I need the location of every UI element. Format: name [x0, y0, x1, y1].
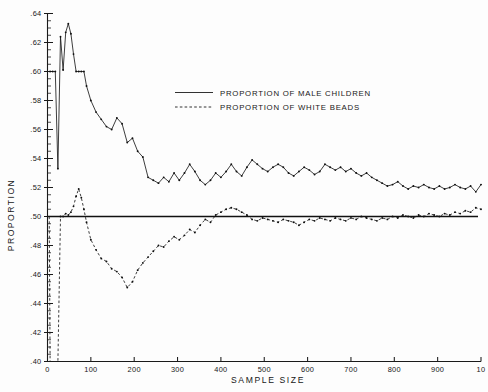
svg-text:200: 200	[128, 365, 141, 374]
svg-text:500: 500	[258, 365, 271, 374]
svg-text:.58: .58	[30, 96, 41, 105]
svg-text:.44: .44	[30, 299, 41, 308]
x-axis-ticks	[48, 357, 482, 362]
y-axis-major-ticks	[44, 14, 53, 362]
svg-text:.62: .62	[30, 38, 41, 47]
svg-text:.40: .40	[30, 357, 41, 366]
chart-figure: .40.42.44.46.48.50.52.54.56.58.60.62.64 …	[0, 0, 488, 392]
svg-text:600: 600	[301, 365, 314, 374]
y-axis-title: PROPORTION	[6, 179, 16, 252]
svg-text:.56: .56	[30, 125, 41, 134]
svg-text:10: 10	[477, 365, 486, 374]
svg-text:.60: .60	[30, 67, 41, 76]
svg-text:.54: .54	[30, 154, 41, 163]
svg-text:.64: .64	[30, 9, 41, 18]
legend: PROPORTION OF MALE CHILDREN PROPORTION O…	[175, 89, 371, 113]
legend-label-white-beads: PROPORTION OF WHITE BEADS	[220, 103, 360, 112]
svg-text:300: 300	[171, 365, 184, 374]
legend-label-male-children: PROPORTION OF MALE CHILDREN	[220, 89, 371, 98]
svg-text:.50: .50	[30, 212, 41, 221]
svg-text:100: 100	[84, 365, 97, 374]
svg-text:.42: .42	[30, 328, 41, 337]
x-axis-title: SAMPLE SIZE	[231, 375, 305, 385]
svg-text:800: 800	[388, 365, 401, 374]
series-line-white-beads	[49, 189, 481, 362]
svg-text:400: 400	[214, 365, 227, 374]
svg-text:900: 900	[431, 365, 444, 374]
svg-text:.48: .48	[30, 241, 41, 250]
svg-text:.46: .46	[30, 270, 41, 279]
series-markers-white-beads	[60, 188, 482, 288]
y-axis-tick-labels: .40.42.44.46.48.50.52.54.56.58.60.62.64	[30, 9, 41, 366]
x-axis-tick-labels: 010020030040050060070080090010	[45, 365, 485, 374]
svg-text:0: 0	[45, 365, 49, 374]
plot-area: .40.42.44.46.48.50.52.54.56.58.60.62.64 …	[0, 0, 488, 392]
svg-text:700: 700	[344, 365, 357, 374]
svg-text:.52: .52	[30, 183, 41, 192]
